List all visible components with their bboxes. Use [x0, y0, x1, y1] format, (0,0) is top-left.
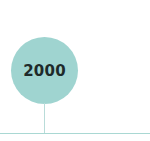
milestone-marker: 2000	[11, 37, 78, 104]
timeline-axis-line	[0, 133, 150, 134]
milestone-year: 2000	[23, 62, 66, 80]
milestone-connector-line	[44, 103, 45, 134]
timeline-diagram: 2000	[0, 0, 150, 141]
